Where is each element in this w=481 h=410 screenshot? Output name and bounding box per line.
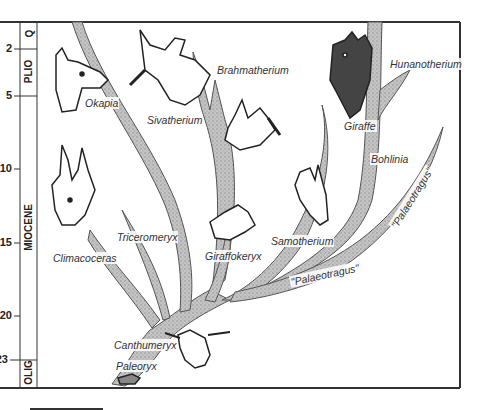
giraffokeryx-head-icon xyxy=(210,205,255,240)
epoch-label-olig: OLIG xyxy=(23,355,34,391)
branch-climacoceras xyxy=(88,230,160,328)
taxon-label-canthumeryx: Canthumeryx xyxy=(113,339,177,351)
giraffe-head-icon xyxy=(330,32,372,118)
tick-label-2: 2 xyxy=(0,42,12,54)
taxon-label-samotherium: Samotherium xyxy=(270,235,334,247)
taxon-label-climacoceras: Climacoceras xyxy=(52,252,118,264)
taxon-label-giraffokeryx: Giraffokeryx xyxy=(204,250,263,262)
taxon-label-bohlinia: Bohlinia xyxy=(370,153,409,165)
taxon-label-sivatherium: Sivatherium xyxy=(146,114,203,126)
brahmatherium-head-icon xyxy=(225,100,280,150)
tick-label-5: 5 xyxy=(0,89,12,101)
tick-label-20: 20 xyxy=(0,309,12,321)
taxon-label-okapia: Okapia xyxy=(84,97,119,109)
tree-branches xyxy=(72,22,443,386)
taxon-label-giraffe: Giraffe xyxy=(343,120,377,132)
tick-label-10: 10 xyxy=(0,162,12,174)
animal-illustrations xyxy=(52,30,372,384)
tick-label-23: 23 xyxy=(0,353,8,365)
taxon-label-paleoryx: Paleoryx xyxy=(115,360,158,372)
tick-label-15: 15 xyxy=(0,236,12,248)
epoch-label-miocene: MIOCENE xyxy=(23,198,34,258)
taxon-label-triceromeryx: Triceromeryx xyxy=(116,231,178,243)
taxon-label-hunanotherium: Hunanotherium xyxy=(389,58,463,70)
branch-hunanotherium xyxy=(378,70,410,120)
climacoceras-head-icon xyxy=(52,145,95,225)
sivatherium-head-icon xyxy=(130,30,210,105)
epoch-label-plio: PLIO xyxy=(23,52,34,92)
taxon-label-brahmatherium: Brahmatherium xyxy=(216,64,290,76)
epoch-label-q: Q xyxy=(24,23,35,45)
